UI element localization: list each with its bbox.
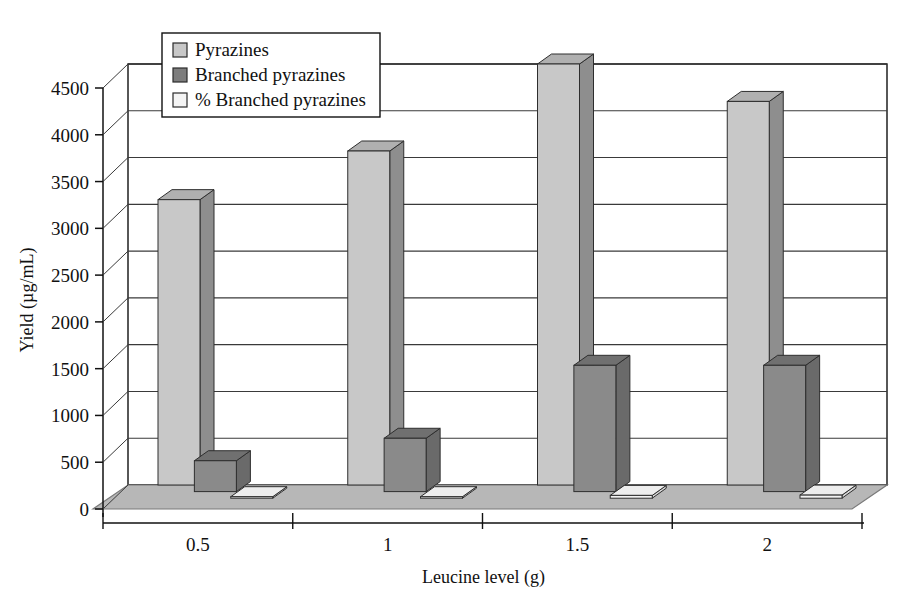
legend-swatch-1 [173,68,187,82]
bar-front-face [727,101,769,485]
y-tick-connector-4500 [103,64,128,88]
bar-front-face [610,495,652,498]
bar-branched-pyrazines-2 [764,355,820,491]
bar-front-face [800,495,842,498]
x-tick-label-1: 1 [383,534,393,555]
y-tick-label-3500: 3500 [51,172,89,193]
y-tick-label-0: 0 [80,499,90,520]
y-tick-connector-1000 [103,391,128,415]
y-tick-connector-3000 [103,204,128,228]
bar-front-face [158,200,200,485]
chart-legend: PyrazinesBranched pyrazines% Branched py… [162,33,380,117]
bar-side-face [616,355,630,491]
y-tick-label-4000: 4000 [51,125,89,146]
x-tick-label-1.5: 1.5 [566,534,590,555]
y-axis: 050010001500200025003000350040004500 [51,64,128,520]
bar-front-face [421,497,463,499]
bar-front-face [384,438,426,491]
y-tick-connector-2000 [103,298,128,322]
bar-front-face [231,497,273,499]
bar-branched-pyrazines-1 [384,428,440,491]
bar-front-face [194,461,236,492]
bar-branched-pyrazines-0.5 [194,451,250,492]
y-tick-label-1500: 1500 [51,359,89,380]
legend-label-0: Pyrazines [195,39,269,60]
bar-branched-pyrazines-1.5 [574,355,630,491]
x-tick-label-2: 2 [762,534,772,555]
x-axis: 0.511.52 [103,513,864,555]
left-wall-plane [93,64,128,509]
y-tick-connector-1500 [103,345,128,369]
legend-label-2: % Branched pyrazines [195,89,366,110]
bar-chart-3d: 050010001500200025003000350040004500 0.5… [0,0,914,600]
chart-figure: 050010001500200025003000350040004500 0.5… [0,0,914,600]
bar-side-face [426,428,440,491]
y-tick-label-2500: 2500 [51,265,89,286]
bar-front-face [538,64,580,485]
y-tick-label-1000: 1000 [51,405,89,426]
y-tick-connector-4000 [103,111,128,135]
legend-swatch-0 [173,43,187,57]
y-tick-label-2000: 2000 [51,312,89,333]
bar-side-face [806,355,820,491]
y-tick-connector-3500 [103,158,128,182]
y-tick-label-3000: 3000 [51,218,89,239]
y-tick-connector-500 [103,438,128,462]
x-axis-title: Leucine level (g) [422,567,545,588]
y-tick-label-4500: 4500 [51,78,89,99]
legend-label-1: Branched pyrazines [195,64,345,85]
y-axis-title: Yield (µg/mL) [17,248,38,353]
bar-front-face [348,151,390,485]
y-tick-connector-2500 [103,251,128,275]
bar-front-face [764,365,806,491]
bar-side-face [200,190,214,485]
bar-front-face [574,365,616,491]
y-tick-label-500: 500 [61,452,90,473]
legend-swatch-2 [173,93,187,107]
bar-pyrazines-0.5 [158,190,214,485]
x-tick-label-0.5: 0.5 [186,534,210,555]
